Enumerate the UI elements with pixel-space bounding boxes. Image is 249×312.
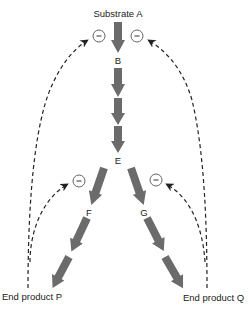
arrow-c-to-d xyxy=(111,98,125,125)
inhibition-icon-right-branch xyxy=(150,174,162,186)
label-e: E xyxy=(115,156,121,166)
pathway-arrows xyxy=(111,22,125,153)
feedback-q-to-branch-g xyxy=(166,184,205,262)
feedback-p-to-first-step xyxy=(28,40,88,288)
arrow-b-to-c xyxy=(111,68,125,97)
inhibition-icon-left-top xyxy=(93,30,105,42)
label-g: G xyxy=(140,208,147,218)
arrow-g-to-next xyxy=(141,215,170,254)
feedback-p-to-branch-f xyxy=(30,184,68,262)
arrow-d-to-e xyxy=(111,126,125,153)
arrow-e-to-g xyxy=(124,166,150,207)
arrow-a-to-b xyxy=(111,22,125,53)
arrow-to-end-product-q xyxy=(159,254,189,292)
inhibition-icon-right-top xyxy=(131,30,143,42)
label-substrate-a: Substrate A xyxy=(93,9,142,19)
label-f: F xyxy=(86,208,92,218)
branch-arrows xyxy=(46,166,189,292)
feedback-q-to-first-step xyxy=(148,40,207,288)
label-b: B xyxy=(115,56,121,66)
label-end-product-p: End product P xyxy=(2,292,62,302)
pathway-diagram: Substrate A B E F G End product P End pr… xyxy=(0,0,249,312)
diagram-graphics xyxy=(0,0,249,312)
label-end-product-q: End product Q xyxy=(183,293,244,303)
arrow-f-to-next xyxy=(65,215,93,254)
arrow-to-end-product-p xyxy=(46,254,75,291)
arrow-e-to-f xyxy=(85,166,111,207)
inhibition-icon-left-branch xyxy=(73,175,85,187)
